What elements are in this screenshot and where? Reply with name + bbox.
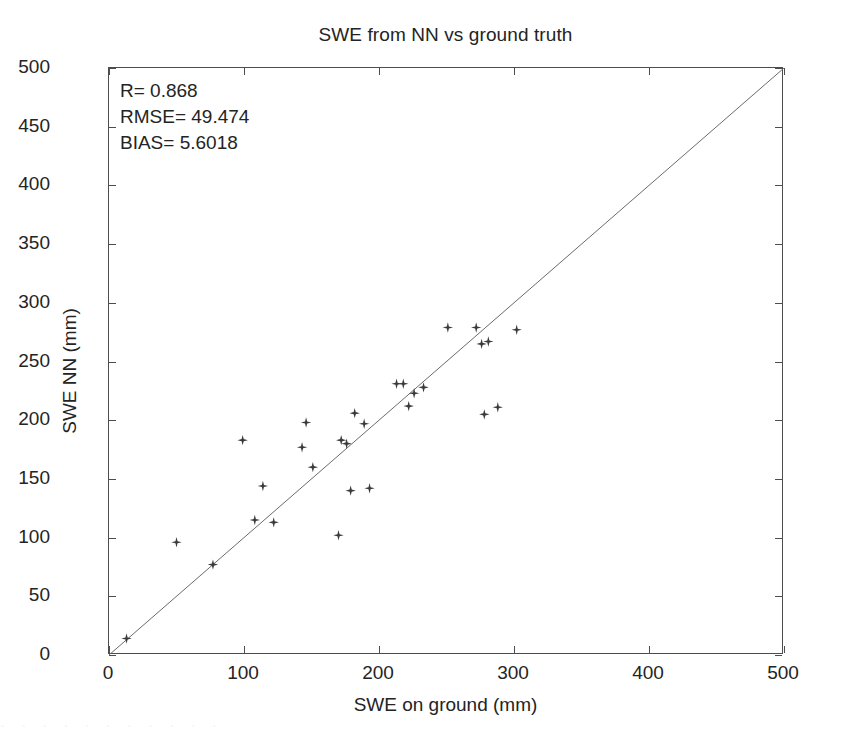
data-point-marker [345, 485, 355, 495]
y-tick-mark [109, 127, 116, 128]
y-tick-label: 150 [18, 467, 50, 489]
data-point-marker [171, 537, 181, 547]
data-point-marker [483, 336, 493, 346]
y-tick-mark [109, 362, 116, 363]
x-tick-mark [379, 68, 380, 75]
y-tick-label: 50 [29, 584, 50, 606]
x-tick-label: 400 [632, 662, 664, 684]
data-point-marker [404, 401, 414, 411]
x-tick-label: 200 [362, 662, 394, 684]
data-point-marker [409, 388, 419, 398]
data-point-marker [493, 402, 503, 412]
data-point-marker [308, 462, 318, 472]
x-tick-mark [514, 646, 515, 653]
y-tick-mark [109, 479, 116, 480]
y-tick-label: 250 [18, 350, 50, 372]
y-tick-mark [775, 362, 782, 363]
data-point-marker [121, 633, 131, 643]
stat-rmse: RMSE= 49.474 [120, 104, 249, 130]
y-tick-mark [109, 420, 116, 421]
data-point-marker [297, 442, 307, 452]
y-tick-label: 200 [18, 408, 50, 430]
x-tick-label: 500 [767, 662, 799, 684]
x-tick-mark [244, 68, 245, 75]
y-tick-mark [109, 538, 116, 539]
y-tick-mark [109, 185, 116, 186]
data-point-marker [398, 379, 408, 389]
scatter-plot-figure: SWE from NN vs ground truth SWE NN (mm) … [0, 0, 842, 748]
y-axis-label: SWE NN (mm) [59, 241, 81, 501]
x-tick-mark [649, 68, 650, 75]
x-tick-mark [109, 646, 110, 653]
reference-line [109, 68, 784, 655]
y-tick-mark [109, 68, 116, 69]
x-tick-label: 300 [497, 662, 529, 684]
data-point-marker [350, 408, 360, 418]
x-tick-mark [649, 646, 650, 653]
chart-title: SWE from NN vs ground truth [108, 24, 783, 46]
one-to-one-line [109, 68, 784, 655]
scan-artifact: · · · · · · · · · · · [0, 716, 842, 742]
data-point-marker [301, 417, 311, 427]
y-tick-mark [109, 244, 116, 245]
y-tick-label: 350 [18, 232, 50, 254]
data-point-marker [476, 339, 486, 349]
data-layer [109, 68, 784, 655]
x-tick-mark [244, 646, 245, 653]
y-tick-mark [775, 127, 782, 128]
x-tick-mark [784, 68, 785, 75]
data-point-marker [443, 322, 453, 332]
data-point-marker [237, 435, 247, 445]
x-tick-mark [514, 68, 515, 75]
y-tick-mark [109, 303, 116, 304]
y-tick-label: 300 [18, 291, 50, 313]
data-point-marker [418, 382, 428, 392]
data-point-marker [258, 481, 268, 491]
y-tick-mark [775, 479, 782, 480]
stat-r: R= 0.868 [120, 78, 249, 104]
y-tick-mark [775, 185, 782, 186]
y-tick-mark [775, 303, 782, 304]
data-point-marker [333, 530, 343, 540]
x-tick-mark [784, 646, 785, 653]
x-tick-mark [379, 646, 380, 653]
y-tick-label: 400 [18, 173, 50, 195]
data-point-marker [479, 409, 489, 419]
y-tick-mark [775, 244, 782, 245]
y-tick-mark [775, 655, 782, 656]
data-point-marker [512, 325, 522, 335]
y-tick-mark [775, 596, 782, 597]
x-axis-label: SWE on ground (mm) [108, 694, 783, 716]
stat-bias: BIAS= 5.6018 [120, 130, 249, 156]
data-point-marker [250, 515, 260, 525]
y-tick-mark [775, 68, 782, 69]
y-tick-label: 500 [18, 56, 50, 78]
y-tick-label: 0 [39, 643, 50, 665]
y-tick-mark [109, 655, 116, 656]
y-tick-mark [109, 596, 116, 597]
data-points-group [121, 322, 522, 644]
x-tick-label: 100 [227, 662, 259, 684]
y-tick-label: 450 [18, 115, 50, 137]
statistics-annotation: R= 0.868 RMSE= 49.474 BIAS= 5.6018 [120, 78, 249, 156]
data-point-marker [471, 322, 481, 332]
x-tick-mark [109, 68, 110, 75]
y-tick-mark [775, 538, 782, 539]
data-point-marker [269, 517, 279, 527]
data-point-marker [364, 483, 374, 493]
y-tick-mark [775, 420, 782, 421]
x-tick-label: 0 [103, 662, 114, 684]
data-point-marker [359, 419, 369, 429]
y-tick-label: 100 [18, 526, 50, 548]
